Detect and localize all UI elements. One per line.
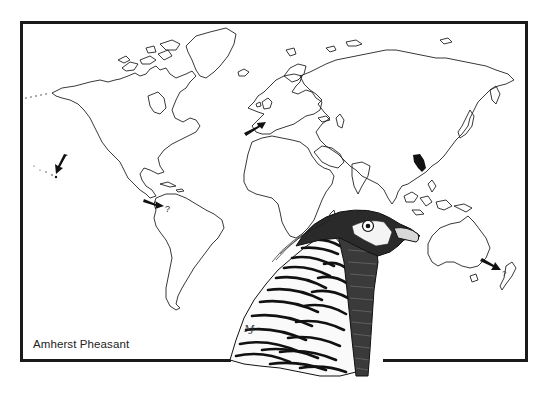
continent-asia	[300, 50, 514, 204]
arrow-south-america	[143, 199, 164, 209]
continent-greenland	[186, 28, 236, 78]
native-range-china	[413, 154, 426, 172]
question-mark-south-america: ?	[165, 204, 170, 214]
figure-canvas: ? ?	[0, 0, 548, 396]
figure-caption: Amherst Pheasant	[33, 338, 129, 350]
arrow-new-zealand	[480, 258, 501, 270]
world-map: ? ?	[0, 0, 548, 396]
question-mark-new-zealand: ?	[502, 269, 507, 278]
arrow-hawaii	[55, 154, 68, 174]
pheasant-illustration	[230, 210, 420, 376]
continent-north-america	[52, 66, 200, 198]
artist-signature: Ɱ	[244, 323, 255, 334]
